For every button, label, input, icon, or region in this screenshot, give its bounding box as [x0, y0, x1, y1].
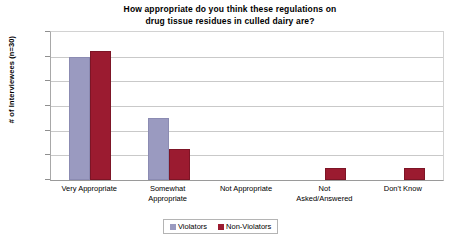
- legend-label: Non-Violators: [226, 222, 271, 231]
- y-tick-mark: [45, 179, 50, 180]
- y-tick-mark: [45, 105, 50, 106]
- bar-non-violators: [169, 149, 190, 180]
- bar-non-violators: [325, 168, 346, 180]
- y-tick-mark: [45, 31, 50, 32]
- chart-title: How appropriate do you think these regul…: [60, 4, 400, 27]
- legend-swatch-icon: [218, 224, 224, 230]
- x-tick-label: Don't Know: [355, 184, 451, 194]
- chart-legend: ViolatorsNon-Violators: [163, 219, 278, 234]
- bar-chart: How appropriate do you think these regul…: [0, 0, 453, 243]
- bar-violators: [148, 118, 169, 180]
- y-tick-mark: [45, 130, 50, 131]
- bar-non-violators: [404, 168, 425, 180]
- legend-item: Non-Violators: [218, 222, 271, 231]
- plot-area: [50, 31, 444, 181]
- y-tick-mark: [45, 80, 50, 81]
- chart-title-text: How appropriate do you think these regul…: [124, 4, 337, 26]
- y-axis-title: # of Interviewees (n=30): [7, 15, 16, 145]
- y-tick-mark: [45, 56, 50, 57]
- legend-item: Violators: [170, 222, 207, 231]
- bar-violators: [69, 57, 90, 180]
- bar-non-violators: [90, 51, 111, 181]
- legend-swatch-icon: [170, 224, 176, 230]
- y-tick-mark: [45, 154, 50, 155]
- legend-label: Violators: [178, 222, 207, 231]
